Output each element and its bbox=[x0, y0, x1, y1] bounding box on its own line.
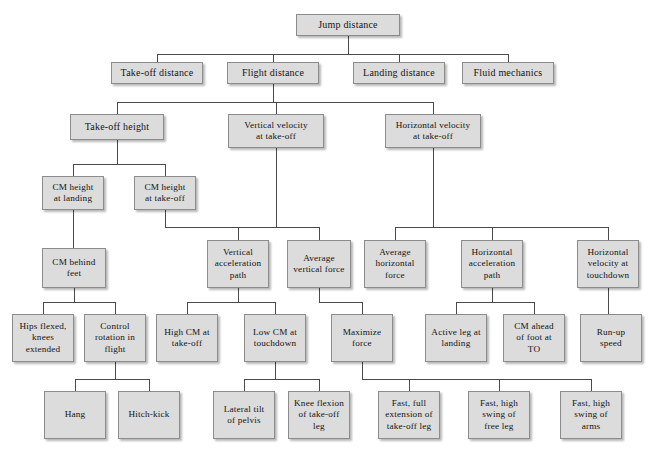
node-jump-distance[interactable]: Jump distance bbox=[296, 14, 400, 36]
node-vertical-acceleration-path[interactable]: Vertical acceleration path bbox=[207, 240, 269, 288]
node-landing-distance[interactable]: Landing distance bbox=[353, 62, 445, 84]
edge-vertical-velocity-stem bbox=[276, 148, 277, 227]
edge-control-rotation-bus bbox=[75, 379, 149, 380]
edge-drop-maximize-force bbox=[362, 302, 363, 314]
node-hitch-kick[interactable]: Hitch-kick bbox=[118, 391, 180, 439]
node-hips-flexed-knees-extended[interactable]: Hips flexed, knees extended bbox=[12, 314, 74, 362]
node-run-up-speed[interactable]: Run-up speed bbox=[580, 314, 642, 362]
node-maximize-force[interactable]: Maximize force bbox=[331, 314, 393, 362]
edge-drop-low-cm-at-touchdown bbox=[275, 302, 276, 314]
node-low-cm-at-touchdown[interactable]: Low CM at touchdown bbox=[244, 314, 306, 362]
node-flight-distance[interactable]: Flight distance bbox=[227, 62, 319, 84]
edge-horizontal-bus bbox=[395, 227, 608, 228]
node-horizontal-velocity-at-touchdown[interactable]: Horizontal velocity at touchdown bbox=[577, 240, 639, 288]
edge-level1-bus bbox=[157, 54, 508, 55]
edge-flight-distance-stem bbox=[273, 84, 274, 102]
edge-level2-bus bbox=[117, 102, 433, 103]
node-fluid-mechanics[interactable]: Fluid mechanics bbox=[462, 62, 554, 84]
edge-horizontal-path-stem bbox=[492, 288, 493, 302]
edge-drop-vertical-velocity bbox=[276, 102, 277, 114]
edge-vertical-path-stem bbox=[238, 288, 239, 302]
node-vertical-velocity-at-take-off[interactable]: Vertical velocity at take-off bbox=[228, 114, 324, 148]
edge-drop-landing-distance bbox=[399, 54, 400, 62]
edge-drop-vertical-acceleration-path bbox=[238, 227, 239, 240]
edge-drop-flight-distance bbox=[273, 54, 274, 62]
edge-control-rotation-stem bbox=[115, 362, 116, 379]
edge-drop-fluid-mechanics bbox=[508, 54, 509, 62]
edge-horizontal-touchdown-to-run-up bbox=[608, 288, 609, 314]
edge-avg-vertical-force-stem bbox=[319, 288, 320, 302]
edge-low-cm-stem bbox=[275, 362, 276, 379]
edge-drop-average-vertical-force bbox=[319, 227, 320, 240]
edge-drop-hips-flexed bbox=[43, 302, 44, 314]
node-active-leg-at-landing[interactable]: Active leg at landing bbox=[425, 314, 487, 362]
edge-take-off-height-stem bbox=[117, 140, 118, 164]
edge-take-off-height-bus bbox=[73, 164, 165, 165]
edge-avg-vertical-force-bus bbox=[319, 302, 363, 303]
edge-drop-hitch-kick bbox=[149, 379, 150, 391]
edge-drop-horizontal-acceleration-path bbox=[492, 227, 493, 240]
node-cm-ahead-of-foot-at-to[interactable]: CM ahead of foot at TO bbox=[503, 314, 565, 362]
node-cm-behind-feet[interactable]: CM behind feet bbox=[42, 248, 106, 288]
edge-drop-hang bbox=[75, 379, 76, 391]
node-take-off-height[interactable]: Take-off height bbox=[70, 114, 164, 140]
edge-drop-average-horizontal-force bbox=[395, 227, 396, 240]
edge-drop-cm-height-at-take-off bbox=[165, 164, 166, 176]
edge-drop-control-rotation bbox=[115, 302, 116, 314]
edge-maximize-force-stem bbox=[362, 362, 363, 379]
node-take-off-distance[interactable]: Take-off distance bbox=[111, 62, 203, 84]
node-cm-height-at-take-off[interactable]: CM height at take-off bbox=[134, 176, 196, 210]
edge-maximize-force-bus bbox=[362, 379, 591, 380]
edge-jump-distance-stem bbox=[348, 36, 349, 54]
edge-drop-knee-flexion bbox=[319, 379, 320, 391]
edge-drop-take-off-height bbox=[117, 102, 118, 114]
edge-drop-fast-high-swing-arms bbox=[591, 379, 592, 391]
edge-vertical-path-bus bbox=[187, 302, 275, 303]
node-fast-high-swing-of-free-leg[interactable]: Fast, high swing of free leg bbox=[468, 391, 530, 439]
edge-cm-behind-feet-bus bbox=[43, 302, 115, 303]
edge-drop-cm-height-at-landing bbox=[73, 164, 74, 176]
edge-low-cm-bus bbox=[244, 379, 319, 380]
node-average-vertical-force[interactable]: Average vertical force bbox=[287, 240, 351, 288]
node-cm-height-at-landing[interactable]: CM height at landing bbox=[42, 176, 104, 210]
node-high-cm-at-take-off[interactable]: High CM at take-off bbox=[156, 314, 218, 362]
node-control-rotation-in-flight[interactable]: Control rotation in flight bbox=[84, 314, 146, 362]
edge-drop-high-cm-at-take-off bbox=[187, 302, 188, 314]
node-fast-full-extension-of-take-off-leg[interactable]: Fast, full extension of take-off leg bbox=[378, 391, 440, 439]
edge-drop-horizontal-velocity-touchdown bbox=[608, 227, 609, 240]
edge-drop-horizontal-velocity bbox=[433, 102, 434, 114]
edge-drop-fast-full-extension bbox=[409, 379, 410, 391]
node-horizontal-acceleration-path[interactable]: Horizontal acceleration path bbox=[461, 240, 523, 288]
edge-cm-height-take-off-stem bbox=[165, 210, 166, 227]
node-lateral-tilt-of-pelvis[interactable]: Lateral tilt of pelvis bbox=[213, 391, 275, 439]
node-fast-high-swing-of-arms[interactable]: Fast, high swing of arms bbox=[560, 391, 622, 439]
edge-drop-cm-ahead-of-foot bbox=[534, 302, 535, 314]
edge-cm-behind-feet-stem bbox=[74, 288, 75, 302]
edge-vertical-bus bbox=[165, 227, 319, 228]
edge-drop-lateral-tilt bbox=[244, 379, 245, 391]
node-hang[interactable]: Hang bbox=[44, 391, 106, 439]
edge-horizontal-path-bus bbox=[456, 302, 534, 303]
edge-drop-active-leg-at-landing bbox=[456, 302, 457, 314]
node-average-horizontal-force[interactable]: Average horizontal force bbox=[364, 240, 426, 288]
edge-drop-fast-high-swing-free-leg bbox=[499, 379, 500, 391]
edge-cm-height-landing-to-cm-behind-feet bbox=[73, 210, 74, 248]
edge-horizontal-velocity-stem bbox=[433, 148, 434, 227]
flowchart-canvas: Jump distance Take-off distance Flight d… bbox=[0, 0, 656, 461]
node-knee-flexion-of-take-off-leg[interactable]: Knee flexion of take-off leg bbox=[288, 391, 350, 439]
edge-drop-take-off-distance bbox=[157, 54, 158, 62]
node-horizontal-velocity-at-take-off[interactable]: Horizontal velocity at take-off bbox=[385, 114, 481, 148]
